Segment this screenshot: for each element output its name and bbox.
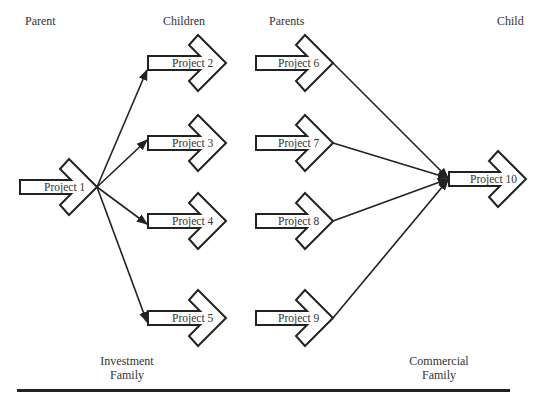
heading-child: Child (497, 14, 524, 29)
project-6-label: Project 6 (278, 56, 319, 70)
link-p1-p5 (97, 187, 147, 322)
investment-family-line2: Family (77, 368, 177, 382)
heading-parent: Parent (25, 14, 56, 29)
commercial-family-label: Commercial Family (389, 354, 489, 382)
project-2-label: Project 2 (172, 56, 213, 70)
bottom-rule-divider (17, 389, 510, 392)
project-1-label: Project 1 (44, 180, 85, 194)
commercial-family-line2: Family (389, 368, 489, 382)
heading-parents: Parents (269, 14, 304, 29)
project-5-label: Project 5 (172, 311, 213, 325)
commercial-links (333, 63, 448, 318)
project-7-label: Project 7 (278, 136, 319, 150)
project-3-label: Project 3 (172, 136, 213, 150)
investment-family-label: Investment Family (77, 354, 177, 382)
investment-links (97, 70, 147, 322)
link-p1-p2 (97, 70, 147, 187)
project-8-label: Project 8 (278, 214, 319, 228)
project-10-label: Project 10 (470, 172, 517, 186)
commercial-family-line1: Commercial (389, 354, 489, 368)
project-4-label: Project 4 (172, 214, 213, 228)
investment-family-line1: Investment (77, 354, 177, 368)
project-family-diagram: Parent Children Parents Child Project 1 … (0, 0, 543, 401)
heading-children: Children (163, 14, 205, 29)
diagram-graphics (0, 0, 543, 401)
project-9-label: Project 9 (278, 311, 319, 325)
link-p1-p3 (97, 140, 147, 187)
